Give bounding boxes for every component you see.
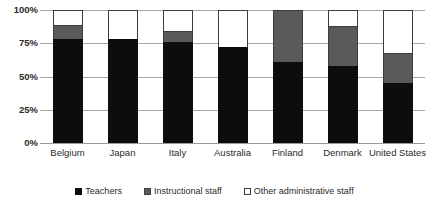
- bar-group[interactable]: [218, 10, 248, 143]
- bar-stack: [383, 10, 413, 143]
- y-axis-tick-label: 0%: [2, 138, 38, 148]
- bar-stack: [273, 10, 303, 143]
- x-axis: BelgiumJapanItalyAustraliaFinlandDenmark…: [40, 147, 425, 177]
- legend-swatch-icon: [75, 188, 82, 195]
- bar-stack: [53, 10, 83, 143]
- gridline-0: [40, 143, 425, 144]
- x-axis-tick-label: United States: [367, 147, 429, 159]
- bar-stack: [328, 10, 358, 143]
- bar-group[interactable]: [273, 10, 303, 143]
- x-axis-tick-label: Italy: [147, 147, 209, 159]
- bar-stack: [163, 10, 193, 143]
- bar-stack: [218, 10, 248, 143]
- y-axis-tick-label: 75%: [2, 38, 38, 48]
- x-axis-tick-label: Belgium: [37, 147, 99, 159]
- legend-label: Teachers: [85, 186, 122, 196]
- legend-swatch-icon: [144, 188, 151, 195]
- chart-legend: TeachersInstructional staffOther adminis…: [0, 186, 429, 197]
- x-axis-tick-label: Finland: [257, 147, 319, 159]
- bar-stack: [108, 10, 138, 143]
- x-axis-tick-label: Japan: [92, 147, 154, 159]
- bar-segment-teachers[interactable]: [108, 39, 138, 143]
- x-axis-tick-label: Australia: [202, 147, 264, 159]
- bar-segment-instructional[interactable]: [328, 26, 358, 66]
- bar-segment-other[interactable]: [163, 10, 193, 31]
- legend-label: Other administrative staff: [254, 186, 354, 196]
- bar-group[interactable]: [53, 10, 83, 143]
- bar-segment-teachers[interactable]: [273, 62, 303, 143]
- bar-segment-instructional[interactable]: [163, 31, 193, 42]
- bar-segment-teachers[interactable]: [53, 39, 83, 143]
- bar-group[interactable]: [383, 10, 413, 143]
- bar-segment-other[interactable]: [328, 10, 358, 26]
- bar-group[interactable]: [163, 10, 193, 143]
- stacked-bar-chart: 100%75%50%25%0% BelgiumJapanItalyAustral…: [0, 0, 429, 197]
- bar-segment-instructional[interactable]: [53, 25, 83, 40]
- bar-segment-other[interactable]: [53, 10, 83, 25]
- y-axis: 100%75%50%25%0%: [0, 0, 38, 197]
- legend-label: Instructional staff: [154, 186, 222, 196]
- bar-group[interactable]: [108, 10, 138, 143]
- bar-segment-other[interactable]: [108, 10, 138, 39]
- bar-segment-teachers[interactable]: [328, 66, 358, 143]
- bar-segment-teachers[interactable]: [163, 42, 193, 143]
- bar-segment-instructional[interactable]: [383, 53, 413, 84]
- bar-segment-teachers[interactable]: [383, 83, 413, 143]
- bar-segment-other[interactable]: [218, 10, 248, 47]
- plot-area: [40, 10, 425, 143]
- legend-item[interactable]: Other administrative staff: [244, 186, 354, 196]
- bar-segment-instructional[interactable]: [273, 10, 303, 62]
- bar-group[interactable]: [328, 10, 358, 143]
- y-axis-tick-label: 100%: [2, 5, 38, 15]
- legend-item[interactable]: Teachers: [75, 186, 122, 196]
- y-axis-tick-label: 50%: [2, 72, 38, 82]
- y-axis-tick-label: 25%: [2, 105, 38, 115]
- legend-item[interactable]: Instructional staff: [144, 186, 222, 196]
- bar-segment-other[interactable]: [383, 10, 413, 53]
- bar-segment-teachers[interactable]: [218, 47, 248, 143]
- legend-swatch-icon: [244, 188, 251, 195]
- x-axis-tick-label: Denmark: [312, 147, 374, 159]
